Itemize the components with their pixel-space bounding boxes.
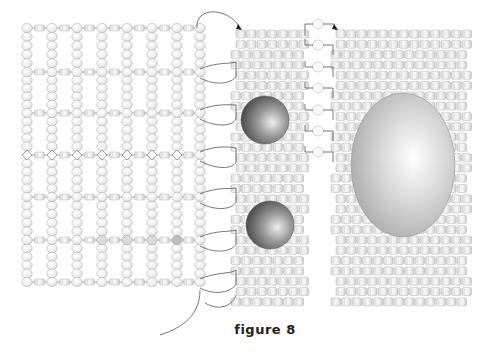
round-bead [47, 261, 57, 270]
cylinder-bead [160, 279, 170, 285]
round-bead [97, 67, 107, 76]
cylinder-bead [352, 215, 362, 223]
round-bead [22, 92, 32, 101]
cylinder-bead [373, 51, 383, 59]
cylinder-bead [420, 40, 430, 48]
cylinder-bead [347, 123, 357, 131]
round-bead [47, 50, 57, 59]
cylinder-bead [420, 246, 430, 254]
cylinder-bead [336, 164, 346, 172]
cylinder-bead [268, 154, 278, 162]
cylinder-bead [405, 298, 415, 306]
cylinder-bead [441, 236, 451, 244]
round-bead [195, 134, 205, 143]
cylinder-bead [357, 236, 367, 244]
round-bead [195, 50, 205, 59]
round-bead [172, 41, 182, 50]
round-bead [22, 50, 32, 59]
cylinder-bead [184, 152, 194, 158]
cylinder-bead [389, 277, 399, 285]
cylinder-bead [257, 164, 267, 172]
cylinder-bead [231, 92, 241, 100]
cylinder-bead [384, 257, 394, 265]
cylinder-bead [342, 298, 352, 306]
cylinder-bead [299, 40, 309, 48]
round-bead [172, 227, 182, 236]
cylinder-bead [363, 61, 373, 69]
cylinder-bead [85, 69, 95, 75]
cylinder-bead [247, 277, 257, 285]
round-bead [172, 84, 182, 93]
cylinder-bead [331, 133, 341, 141]
round-bead [147, 201, 157, 210]
round-bead [97, 176, 107, 185]
round-bead [122, 59, 132, 68]
round-bead [195, 252, 205, 261]
cylinder-bead [331, 51, 341, 59]
cylinder-bead [289, 195, 299, 203]
cylinder-bead [342, 174, 352, 182]
round-bead [22, 167, 32, 176]
cylinder-bead [389, 71, 399, 79]
cylinder-bead [336, 246, 346, 254]
round-bead [47, 227, 57, 236]
cylinder-bead [410, 246, 420, 254]
round-bead [97, 125, 107, 134]
round-bead [122, 108, 132, 117]
cylinder-bead [299, 123, 309, 131]
round-bead [195, 269, 205, 278]
cylinder-bead [352, 92, 362, 100]
junction-bead [72, 150, 82, 160]
cylinder-bead [247, 288, 257, 296]
round-bead [72, 252, 82, 261]
connector-bead [313, 105, 324, 115]
cylinder-bead [410, 277, 420, 285]
round-bead [22, 244, 32, 253]
cylinder-bead [278, 40, 288, 48]
cylinder-bead [452, 195, 462, 203]
cylinder-bead [331, 267, 341, 275]
cylinder-bead [336, 123, 346, 131]
round-bead [47, 218, 57, 227]
round-bead [172, 50, 182, 59]
cylinder-bead [441, 30, 451, 38]
cylinder-bead [236, 288, 246, 296]
cylinder-bead [357, 277, 367, 285]
cylinder-bead [110, 25, 120, 31]
round-bead [72, 23, 82, 32]
cylinder-bead [273, 143, 283, 151]
round-bead [22, 134, 32, 143]
round-bead [172, 134, 182, 143]
round-bead [47, 125, 57, 134]
cylinder-bead [441, 246, 451, 254]
cylinder-bead [160, 25, 170, 31]
cylinder-bead [441, 40, 451, 48]
cylinder-bead [399, 71, 409, 79]
cylinder-bead [431, 246, 441, 254]
round-bead [122, 67, 132, 76]
cylinder-bead [336, 205, 346, 213]
cylinder-bead [415, 298, 425, 306]
round-bead [72, 125, 82, 134]
round-bead [172, 100, 182, 109]
round-bead [195, 142, 205, 151]
cylinder-bead [331, 92, 341, 100]
cylinder-bead [242, 92, 252, 100]
cylinder-bead [399, 40, 409, 48]
cylinder-bead [420, 71, 430, 79]
cylinder-bead [363, 298, 373, 306]
round-bead [22, 108, 32, 117]
cylinder-bead [373, 298, 383, 306]
cylinder-bead [85, 237, 95, 243]
cylinder-bead [247, 71, 257, 79]
cylinder-bead [389, 30, 399, 38]
cylinder-bead [294, 102, 304, 110]
round-bead [147, 244, 157, 253]
cylinder-bead [462, 195, 472, 203]
cylinder-bead [336, 30, 346, 38]
cylinder-bead [236, 40, 246, 48]
round-bead [122, 210, 132, 219]
cylinder-bead [462, 277, 472, 285]
cylinder-bead [331, 257, 341, 265]
round-bead [195, 125, 205, 134]
